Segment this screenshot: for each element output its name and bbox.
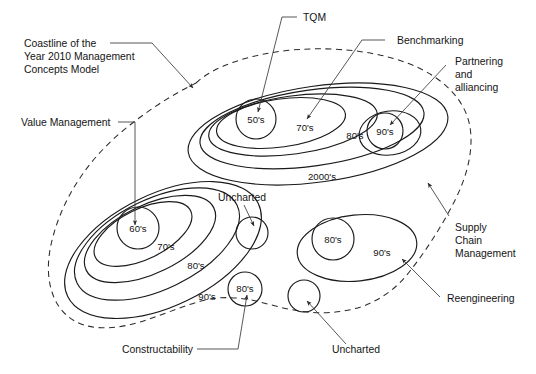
callout-coastline-line2: Year 2010 Management — [24, 51, 135, 62]
decade-label-ll-60s: 60's — [129, 223, 147, 234]
callout-supply-chain-line1: Supply — [455, 222, 488, 233]
decade-label-ll-80s: 80's — [187, 260, 205, 271]
decade-label-upper-70s: 70's — [296, 122, 314, 133]
callout-tqm: TQM — [303, 12, 326, 23]
callout-uncharted-upper: Uncharted — [218, 192, 266, 203]
decade-label-lr-80s: 80's — [324, 234, 342, 245]
callout-coastline-line3: Concepts Model — [24, 64, 99, 75]
decade-label-upper-90s: 90's — [376, 126, 394, 137]
decade-label-ll-90s: 90's — [198, 291, 216, 302]
callout-benchmarking: Benchmarking — [397, 35, 464, 46]
callout-coastline-line1: Coastline of the — [24, 38, 96, 49]
callout-constructability: Constructability — [122, 344, 194, 355]
callout-partnering-line2: and — [455, 69, 473, 80]
callout-supply-chain-line3: Management — [455, 248, 516, 259]
callout-reengineering: Reengineering — [447, 293, 515, 304]
decade-label-upper-50s: 50's — [247, 114, 265, 125]
management-concepts-coastline-diagram: 50's 70's 80's 90's 2000's 60's 70's 80'… — [0, 0, 536, 374]
decade-label-upper-2000s: 2000's — [308, 171, 336, 182]
decade-label-ll-70s: 70's — [157, 241, 175, 252]
callout-partnering-line1: Partnering — [455, 56, 503, 67]
decade-label-lr-90s: 90's — [373, 247, 391, 258]
diagram-canvas: 50's 70's 80's 90's 2000's 60's 70's 80'… — [0, 0, 536, 374]
callout-uncharted-lower: Uncharted — [332, 344, 380, 355]
decade-label-upper-80s: 80's — [346, 130, 364, 141]
callout-supply-chain-line2: Chain — [455, 235, 482, 246]
callout-partnering-line3: alliancing — [455, 82, 499, 93]
callout-value-management: Value Management — [21, 117, 110, 128]
decade-label-ll-satellite-80s: 80's — [236, 283, 254, 294]
